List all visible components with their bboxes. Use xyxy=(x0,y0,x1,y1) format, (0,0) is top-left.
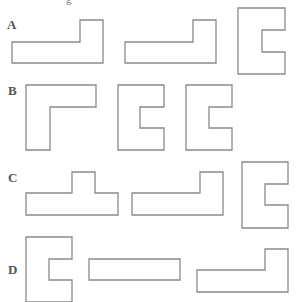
row-c: C xyxy=(8,162,288,228)
shape-puzzle-figure: g A B C D xyxy=(0,0,299,302)
row-label-d: D xyxy=(8,262,17,277)
row-label-c: C xyxy=(8,170,17,185)
cropped-caption-text: g xyxy=(66,0,72,5)
row-c-shape-2 xyxy=(132,172,223,215)
row-b: B xyxy=(8,83,232,150)
row-d-shape-1 xyxy=(26,237,72,302)
row-d: D xyxy=(8,237,288,302)
row-label-a: A xyxy=(7,17,17,32)
row-a: A xyxy=(7,8,285,74)
row-b-shape-2 xyxy=(118,85,164,150)
row-b-shape-3 xyxy=(186,85,232,150)
row-c-shape-1 xyxy=(26,172,118,215)
row-a-shape-2 xyxy=(125,20,216,63)
row-c-shape-3 xyxy=(242,162,288,228)
row-a-shape-1 xyxy=(12,20,103,63)
row-d-shape-2 xyxy=(89,259,180,280)
row-b-shape-1 xyxy=(26,85,96,150)
row-a-shape-3 xyxy=(238,8,285,74)
row-d-shape-3 xyxy=(197,249,288,292)
row-label-b: B xyxy=(8,83,17,98)
